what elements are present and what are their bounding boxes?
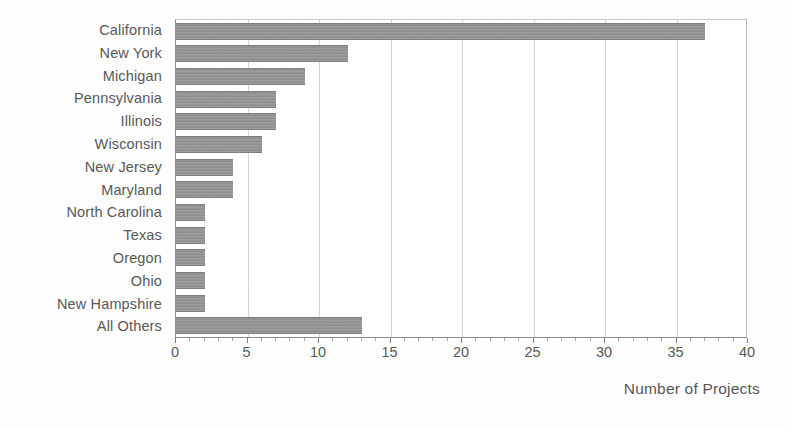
value-tick-minor-38 <box>718 338 719 341</box>
value-tick-major-20 <box>461 338 462 343</box>
bar-maryland <box>176 181 233 198</box>
value-tick-major-25 <box>533 338 534 343</box>
value-tick-label-20: 20 <box>453 345 469 360</box>
value-tick-minor-16 <box>404 338 405 341</box>
category-label-new-jersey: New Jersey <box>0 156 169 179</box>
bar-new-hampshire <box>176 295 205 312</box>
value-tick-minor-31 <box>618 338 619 341</box>
bar-row <box>176 314 746 337</box>
value-tick-minor-4 <box>232 338 233 341</box>
bar-row <box>176 65 746 88</box>
value-tick-minor-17 <box>418 338 419 341</box>
category-axis-labels: California New York Michigan Pennsylvani… <box>0 19 169 338</box>
category-label-maryland: Maryland <box>0 178 169 201</box>
value-tick-minor-13 <box>361 338 362 341</box>
bar-north-carolina <box>176 204 205 221</box>
category-label-north-carolina: North Carolina <box>0 201 169 224</box>
category-label-oregon: Oregon <box>0 247 169 270</box>
bar-series <box>176 20 746 337</box>
value-tick-label-30: 30 <box>596 345 612 360</box>
value-axis-labels: 0510152025303540 <box>175 345 747 365</box>
category-label-pennsylvania: Pennsylvania <box>0 87 169 110</box>
value-tick-minor-34 <box>661 338 662 341</box>
bar-michigan <box>176 68 305 85</box>
bar-row <box>176 246 746 269</box>
value-tick-label-0: 0 <box>171 345 179 360</box>
bar-row <box>176 269 746 292</box>
value-tick-major-15 <box>390 338 391 343</box>
value-tick-major-35 <box>676 338 677 343</box>
value-tick-label-10: 10 <box>310 345 326 360</box>
bar-row <box>176 292 746 315</box>
value-tick-minor-8 <box>289 338 290 341</box>
category-label-wisconsin: Wisconsin <box>0 133 169 156</box>
value-tick-minor-23 <box>504 338 505 341</box>
bar-wisconsin <box>176 136 262 153</box>
value-tick-minor-33 <box>647 338 648 341</box>
value-tick-minor-27 <box>561 338 562 341</box>
bar-row <box>176 201 746 224</box>
category-label-michigan: Michigan <box>0 65 169 88</box>
value-tick-label-40: 40 <box>739 345 755 360</box>
bar-all-others <box>176 317 362 334</box>
value-tick-minor-21 <box>475 338 476 341</box>
value-tick-minor-22 <box>490 338 491 341</box>
value-tick-minor-37 <box>704 338 705 341</box>
bar-new-york <box>176 45 348 62</box>
category-label-illinois: Illinois <box>0 110 169 133</box>
value-tick-minor-32 <box>633 338 634 341</box>
value-tick-minor-36 <box>690 338 691 341</box>
value-tick-minor-3 <box>218 338 219 341</box>
bar-row <box>176 43 746 66</box>
value-tick-minor-18 <box>432 338 433 341</box>
bar-row <box>176 156 746 179</box>
category-label-all-others: All Others <box>0 315 169 338</box>
bar-california <box>176 23 705 40</box>
bar-pennsylvania <box>176 91 276 108</box>
bar-texas <box>176 227 205 244</box>
bar-row <box>176 111 746 134</box>
bar-illinois <box>176 113 276 130</box>
value-axis-title: Number of Projects <box>0 380 760 398</box>
bar-row <box>176 178 746 201</box>
value-tick-minor-29 <box>590 338 591 341</box>
value-tick-minor-7 <box>275 338 276 341</box>
value-tick-minor-6 <box>261 338 262 341</box>
value-tick-label-15: 15 <box>381 345 397 360</box>
value-tick-minor-24 <box>518 338 519 341</box>
bar-new-jersey <box>176 159 233 176</box>
bar-oregon <box>176 249 205 266</box>
value-tick-minor-1 <box>189 338 190 341</box>
value-tick-minor-26 <box>547 338 548 341</box>
value-tick-minor-19 <box>447 338 448 341</box>
bar-row <box>176 20 746 43</box>
value-tick-minor-14 <box>375 338 376 341</box>
value-tick-major-40 <box>747 338 748 343</box>
value-tick-major-0 <box>175 338 176 343</box>
value-tick-minor-2 <box>204 338 205 341</box>
value-tick-label-35: 35 <box>667 345 683 360</box>
value-tick-minor-12 <box>347 338 348 341</box>
plot-area <box>175 19 747 338</box>
value-tick-major-10 <box>318 338 319 343</box>
value-tick-label-5: 5 <box>242 345 250 360</box>
category-label-ohio: Ohio <box>0 270 169 293</box>
value-tick-major-5 <box>247 338 248 343</box>
value-tick-major-30 <box>604 338 605 343</box>
category-label-california: California <box>0 19 169 42</box>
bar-row <box>176 133 746 156</box>
value-tick-minor-11 <box>332 338 333 341</box>
category-label-new-hampshire: New Hampshire <box>0 292 169 315</box>
value-tick-minor-28 <box>575 338 576 341</box>
value-tick-minor-9 <box>304 338 305 341</box>
value-tick-minor-39 <box>733 338 734 341</box>
value-tick-label-25: 25 <box>524 345 540 360</box>
category-label-new-york: New York <box>0 42 169 65</box>
category-label-texas: Texas <box>0 224 169 247</box>
bar-row <box>176 88 746 111</box>
bar-row <box>176 224 746 247</box>
bar-ohio <box>176 272 205 289</box>
bar-chart-figure: California New York Michigan Pennsylvani… <box>0 0 790 428</box>
